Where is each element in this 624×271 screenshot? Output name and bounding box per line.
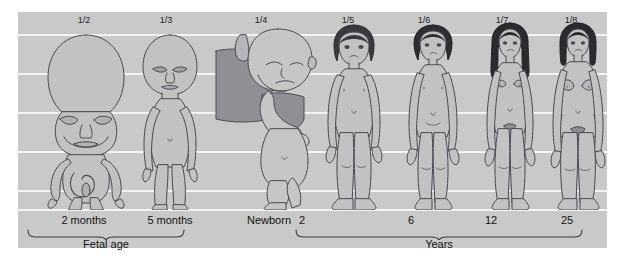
ratio-label-0: 1/2 [64, 15, 104, 25]
age-label-2-years: 2 [247, 214, 357, 226]
age-label-25-years: 25 [512, 214, 622, 226]
age-label-5-months: 5 months [115, 214, 225, 226]
human-figure-6-years [404, 23, 462, 210]
human-figure-25-years [549, 21, 607, 210]
bracket-label-years: Years [369, 238, 509, 250]
ratio-label-1: 1/3 [146, 15, 186, 25]
human-figure-12-years [482, 21, 538, 210]
chart-panel: 1/2 1/3 1/4 1/5 1/6 1/7 1/8 [18, 12, 607, 248]
human-figure-newborn [214, 23, 324, 210]
human-figure-2-months [38, 33, 134, 210]
bracket-label-fetal-age: Fetal age [36, 238, 176, 250]
human-figure-2-years [323, 23, 385, 210]
human-figure-5-months [134, 33, 206, 210]
body-proportions-figure: 1/2 1/3 1/4 1/5 1/6 1/7 1/8 [0, 0, 624, 271]
